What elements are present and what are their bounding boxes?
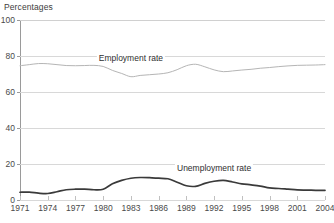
series-label-employment-rate: Employment rate [97,53,165,63]
series-line-employment-rate [20,63,325,76]
series-label-unemployment-rate: Unemployment rate [175,163,253,173]
series-line-unemployment-rate [20,177,325,193]
